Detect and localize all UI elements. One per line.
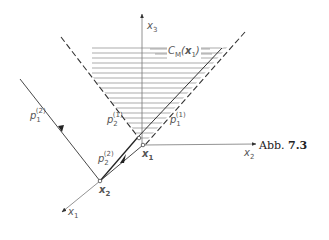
point-x2 bbox=[98, 179, 102, 183]
p1-2-label: p1(2) bbox=[30, 110, 51, 124]
x2-axis-label: x2 bbox=[244, 148, 254, 161]
p2-1-label: p2(1) bbox=[107, 114, 128, 128]
figure-caption: Abb. 7.3 bbox=[259, 139, 307, 152]
cone-hatching bbox=[60, 48, 250, 138]
p2-2-label: p2(2) bbox=[98, 153, 119, 167]
x3-axis-label: x3 bbox=[147, 21, 157, 34]
point-apex bbox=[137, 136, 141, 140]
cone-label: CM(x1) bbox=[167, 46, 201, 59]
point-x1 bbox=[141, 143, 145, 147]
p1-2-line bbox=[20, 79, 100, 181]
x2-axis bbox=[143, 144, 256, 145]
x1-axis-label: x1 bbox=[68, 207, 78, 220]
p1-1-label: p1(1) bbox=[170, 114, 191, 128]
point-x1-label: x1 bbox=[142, 149, 153, 162]
point-x2-label: x2 bbox=[99, 185, 110, 198]
